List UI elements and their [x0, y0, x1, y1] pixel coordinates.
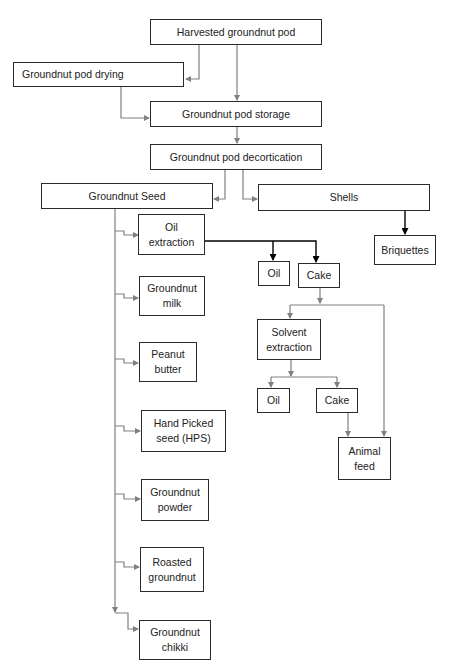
node-cake-1: Cake [298, 263, 340, 288]
node-shells: Shells [258, 184, 430, 211]
node-groundnut-seed: Groundnut Seed [41, 183, 213, 209]
node-groundnut-pod-drying: Groundnut pod drying [13, 62, 184, 87]
node-animal-feed: Animal feed [338, 437, 391, 480]
node-hand-picked-seed: Hand Picked seed (HPS) [141, 410, 226, 452]
node-oil-extraction: Oil extraction [138, 214, 205, 255]
node-groundnut-milk: Groundnut milk [139, 276, 205, 316]
node-groundnut-chikki: Groundnut chikki [139, 620, 211, 660]
node-groundnut-pod-decortication: Groundnut pod decortication [150, 144, 322, 170]
node-groundnut-pod-storage: Groundnut pod storage [150, 101, 322, 127]
node-cake-2: Cake [316, 388, 358, 413]
node-groundnut-powder: Groundnut powder [141, 479, 209, 521]
flowchart: Harvested groundnut pod Groundnut pod dr… [0, 0, 452, 669]
node-harvested-groundnut-pod: Harvested groundnut pod [150, 19, 322, 45]
node-briquettes: Briquettes [374, 235, 436, 265]
node-peanut-butter: Peanut butter [139, 342, 197, 382]
node-roasted-groundnut: Roasted groundnut [140, 547, 204, 592]
node-solvent-extraction: Solvent extraction [257, 319, 321, 360]
node-oil-1: Oil [258, 261, 290, 286]
node-oil-2: Oil [257, 388, 290, 413]
